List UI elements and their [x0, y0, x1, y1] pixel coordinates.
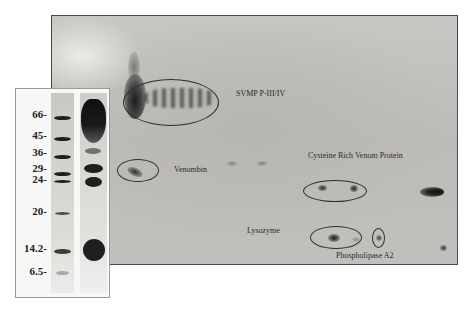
1d-gel-inset: 66- 45- 36- 29- 24- 20- 14.2- 6.5- [15, 88, 110, 298]
marker-band-20 [55, 212, 70, 215]
2d-gel-panel: SVMP P-III/IV Venombin Cysteine Rich Ven… [51, 15, 458, 265]
faint-spot [227, 161, 237, 166]
lysozyme-outline [310, 226, 362, 249]
marker-band-45 [54, 137, 71, 141]
bottom-right-spot [440, 245, 447, 251]
marker-lane [51, 93, 74, 293]
marker-band-6 [56, 271, 69, 275]
sample-band-24 [85, 177, 102, 187]
marker-band-29 [54, 172, 71, 176]
venombin-outline [117, 159, 159, 182]
faint-spot [257, 161, 267, 166]
sample-band-29 [84, 164, 103, 173]
svmp-outline [123, 79, 219, 126]
pla2-outline [372, 228, 385, 248]
svmp-spot-tail [128, 52, 140, 82]
marker-band-24 [54, 180, 71, 183]
sample-lane [80, 93, 107, 293]
mw-label-20: 20- [32, 206, 47, 217]
mw-label-45: 45- [32, 130, 47, 141]
mw-label-36: 36- [32, 147, 47, 158]
sample-band-high [81, 99, 106, 143]
mw-label-24: 24- [32, 174, 47, 185]
mw-label-66: 66- [32, 109, 47, 120]
svmp-label: SVMP P-III/IV [236, 89, 285, 98]
lysozyme-label: Lysozyme [247, 226, 280, 235]
sample-band-mid [85, 148, 101, 154]
right-edge-spot [420, 187, 444, 197]
pla2-label: Phospholipase A2 [336, 251, 394, 260]
marker-band-14 [54, 249, 71, 254]
marker-band-36 [54, 155, 71, 159]
mw-label-14-2: 14.2- [24, 243, 47, 254]
crvp-outline [303, 180, 367, 202]
venombin-label: Venombin [174, 165, 207, 174]
mw-label-6-5: 6.5- [30, 266, 47, 277]
sample-band-14 [83, 239, 105, 261]
crvp-label: Cysteine Rich Venom Protein [308, 151, 403, 160]
marker-band-66 [54, 116, 71, 120]
